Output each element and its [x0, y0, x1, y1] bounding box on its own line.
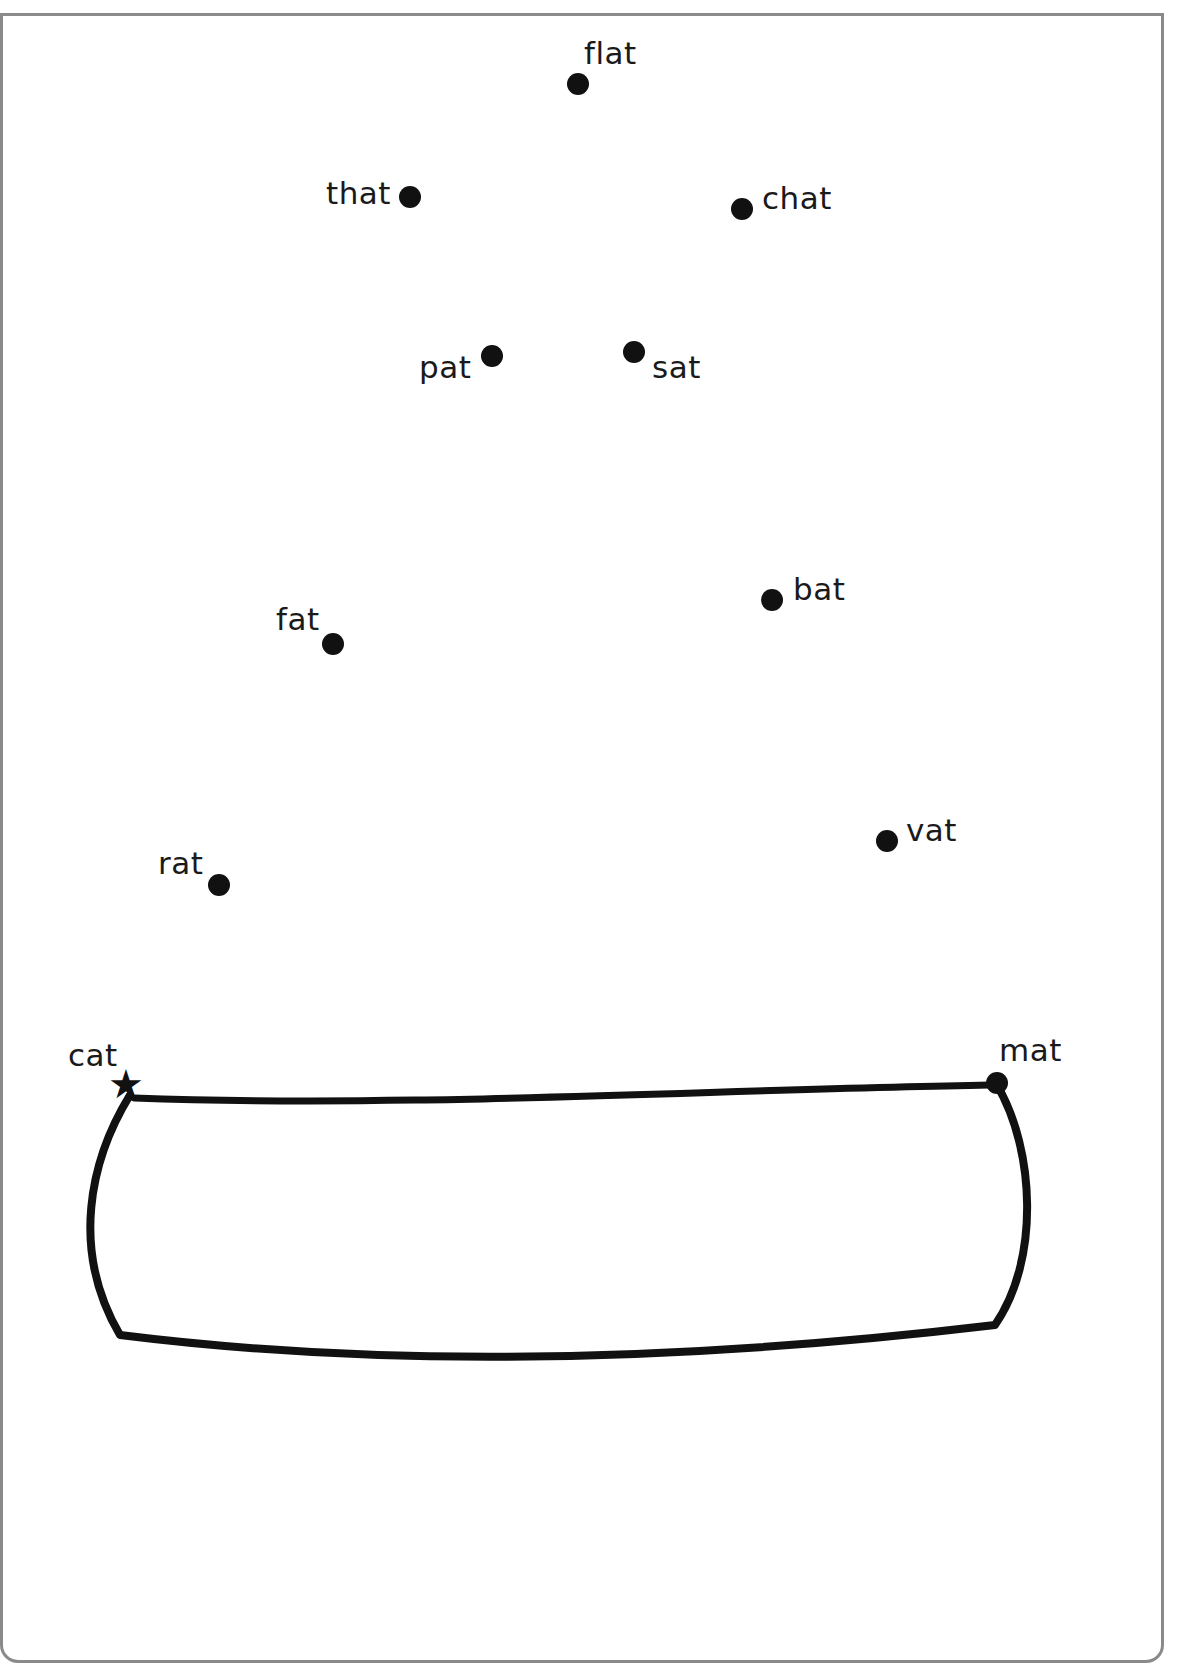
dot-sat[interactable]: [623, 341, 645, 363]
dot-bat[interactable]: [761, 589, 783, 611]
label-mat: mat: [999, 1035, 1062, 1066]
dot-chat[interactable]: [731, 198, 753, 220]
label-flat: flat: [584, 38, 637, 69]
dot-flat[interactable]: [567, 73, 589, 95]
label-bat: bat: [793, 574, 845, 605]
dot-vat[interactable]: [876, 830, 898, 852]
label-chat: chat: [762, 183, 832, 214]
predrawn-top-edge: [134, 1085, 990, 1101]
label-pat: pat: [419, 352, 471, 383]
dot-mat[interactable]: [986, 1072, 1008, 1094]
label-vat: vat: [906, 815, 957, 846]
label-sat: sat: [652, 352, 701, 383]
label-fat: fat: [276, 604, 320, 635]
label-rat: rat: [158, 848, 203, 879]
label-that: that: [326, 178, 391, 209]
dot-that[interactable]: [399, 186, 421, 208]
dot-rat[interactable]: [208, 874, 230, 896]
predrawn-outline: [90, 1085, 1027, 1357]
label-cat: cat: [68, 1040, 118, 1071]
dot-fat[interactable]: [322, 633, 344, 655]
dot-pat[interactable]: [481, 345, 503, 367]
